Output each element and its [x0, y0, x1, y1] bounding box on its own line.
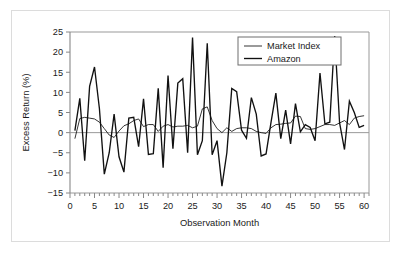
- chart-legend: Market IndexAmazon: [238, 37, 341, 65]
- legend-label-market-index: Market Index: [267, 41, 321, 51]
- y-axis-title: Excess Return (%): [20, 73, 31, 151]
- y-tick-label: 10: [53, 88, 63, 98]
- x-tick-label: 10: [114, 201, 124, 211]
- x-axis-title: Observation Month: [180, 217, 259, 228]
- legend-label-amazon: Amazon: [267, 54, 301, 64]
- excess-return-line-chart: −15−10−50510152025 051015202530354045505…: [12, 11, 389, 241]
- x-tick-label: 15: [138, 201, 148, 211]
- y-tick-label: −10: [47, 168, 63, 178]
- y-tick-label: 25: [53, 27, 63, 37]
- y-tick-label: −15: [47, 188, 63, 198]
- y-tick-label: −5: [53, 148, 63, 158]
- y-tick-label: 20: [53, 47, 63, 57]
- y-tick-label: 0: [58, 128, 63, 138]
- x-tick-label: 35: [236, 201, 246, 211]
- y-tick-label: 15: [53, 68, 63, 78]
- x-tick-label: 5: [92, 201, 97, 211]
- x-tick-label: 25: [187, 201, 197, 211]
- x-tick-label: 40: [261, 201, 271, 211]
- x-tick-label: 50: [310, 201, 320, 211]
- y-tick-label: 5: [58, 108, 63, 118]
- x-tick-label: 45: [285, 201, 295, 211]
- x-tick-label: 30: [212, 201, 222, 211]
- figure-card: −15−10−50510152025 051015202530354045505…: [11, 10, 390, 242]
- x-tick-label: 60: [359, 201, 369, 211]
- x-tick-label: 55: [334, 201, 344, 211]
- x-tick-label: 0: [67, 201, 72, 211]
- x-tick-label: 20: [163, 201, 173, 211]
